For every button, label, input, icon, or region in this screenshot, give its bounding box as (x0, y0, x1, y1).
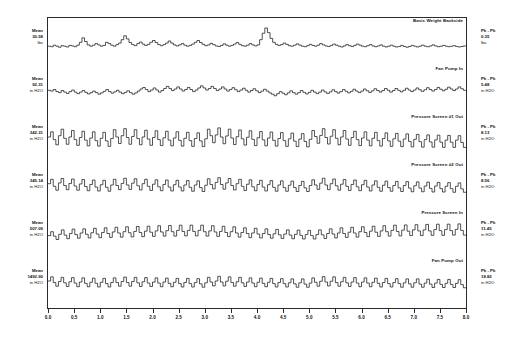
mean-units: in H2O (0, 184, 43, 190)
x-axis-tick-label: 2.0 (149, 315, 155, 320)
x-axis-tick (414, 309, 415, 313)
x-axis-tick-label: 3.0 (202, 315, 208, 320)
pkpk-units: in H2O (481, 280, 518, 286)
x-axis-tick (309, 309, 310, 313)
peak-to-peak-statistic: Pk - Pk5.48in H2O (474, 76, 518, 95)
x-axis-tick (440, 309, 441, 313)
peak-to-peak-statistic: Pk - Pk8.13in H2O (474, 124, 518, 143)
x-axis-tick (283, 309, 284, 313)
signal-panel: Basis Weight BacksideMean30.58lbsPk - Pk… (0, 18, 518, 66)
mean-units: in H2O (0, 232, 43, 238)
x-axis-tick-label: 7.5 (437, 315, 443, 320)
pkpk-units: in H2O (481, 184, 518, 190)
mean-statistic: Mean30.58lbs (0, 28, 43, 47)
signal-panel: Fan Pump InMean92.31in H2OPk - Pk5.48in … (0, 66, 518, 114)
x-axis-tick-label: 1.5 (123, 315, 129, 320)
signal-trace (48, 162, 466, 210)
pkpk-units: in H2O (481, 88, 518, 94)
x-axis-tick-label: 7.0 (411, 315, 417, 320)
x-axis-tick-label: 0.0 (45, 315, 51, 320)
peak-to-peak-statistic: Pk - Pk11.45in H2O (474, 220, 518, 239)
x-axis-tick-label: 4.5 (280, 315, 286, 320)
peak-to-peak-statistic: Pk - Pk8.56in H2O (474, 172, 518, 191)
mean-statistic: Mean92.31in H2O (0, 76, 43, 95)
x-axis-tick-label: 5.5 (332, 315, 338, 320)
signal-panel: Pressure Screen InMean507.09in H2OPk - P… (0, 210, 518, 258)
x-axis-tick-label: 6.0 (358, 315, 364, 320)
x-axis-tick (126, 309, 127, 313)
x-axis-tick (48, 309, 49, 313)
signal-panel: Fan Pump OutMean1492.90in H2OPk - Pk18.8… (0, 258, 518, 306)
x-axis-tick (388, 309, 389, 313)
x-axis-tick (205, 309, 206, 313)
x-axis-tick-label: 2.5 (175, 315, 181, 320)
x-axis-tick (153, 309, 154, 313)
x-axis-tick-label: 5.0 (306, 315, 312, 320)
pkpk-units: in H2O (481, 232, 518, 238)
signal-trace (48, 66, 466, 114)
signal-panel: Pressure Screen #1 OutMean342.31in H2OPk… (0, 114, 518, 162)
mean-statistic: Mean1492.90in H2O (0, 268, 43, 287)
x-axis-tick-label: 3.5 (228, 315, 234, 320)
signal-trace (48, 18, 466, 66)
x-axis-tick (100, 309, 101, 313)
x-axis-tick (179, 309, 180, 313)
pkpk-units: in H2O (481, 136, 518, 142)
mean-statistic: Mean342.31in H2O (0, 124, 43, 143)
signal-trace (48, 258, 466, 306)
mean-units: lbs (0, 40, 43, 46)
x-axis-tick (335, 309, 336, 313)
x-axis: 0.00.51.01.52.02.53.03.54.04.55.05.56.06… (47, 309, 467, 337)
x-axis-tick (257, 309, 258, 313)
mean-statistic: Mean507.09in H2O (0, 220, 43, 239)
mean-statistic: Mean345.14in H2O (0, 172, 43, 191)
signal-panel: Pressure Screen #2 OutMean345.14in H2OPk… (0, 162, 518, 210)
x-axis-tick (231, 309, 232, 313)
signal-trace (48, 114, 466, 162)
x-axis-tick (74, 309, 75, 313)
mean-units: in H2O (0, 136, 43, 142)
x-axis-tick (362, 309, 363, 313)
x-axis-tick-label: 6.5 (384, 315, 390, 320)
mean-units: in H2O (0, 280, 43, 286)
x-axis-tick-label: 8.0 (463, 315, 469, 320)
peak-to-peak-statistic: Pk - Pk18.82in H2O (474, 268, 518, 287)
x-axis-tick-label: 4.0 (254, 315, 260, 320)
x-axis-tick-label: 1.0 (97, 315, 103, 320)
x-axis-tick (466, 309, 467, 313)
peak-to-peak-statistic: Pk - Pk0.35lbs (474, 28, 518, 47)
pkpk-units: lbs (481, 40, 518, 46)
strip-chart-recorder: Basis Weight BacksideMean30.58lbsPk - Pk… (0, 0, 518, 348)
x-axis-tick-label: 0.5 (71, 315, 77, 320)
mean-units: in H2O (0, 88, 43, 94)
signal-trace (48, 210, 466, 258)
